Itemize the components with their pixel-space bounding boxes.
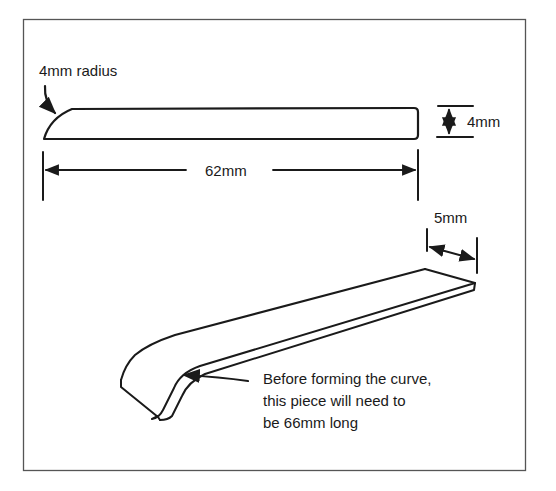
note-line-1: Before forming the curve, (263, 370, 431, 387)
note-line-2: this piece will need to (263, 392, 406, 409)
height-label: 4mm (467, 113, 500, 130)
width-label: 5mm (434, 209, 467, 226)
radius-label: 4mm radius (39, 62, 117, 79)
length-label: 62mm (205, 162, 247, 179)
diagram-canvas: 4mm radius 4mm 62mm 5mm Before forming t… (0, 0, 556, 491)
note-line-3: be 66mm long (263, 414, 358, 431)
